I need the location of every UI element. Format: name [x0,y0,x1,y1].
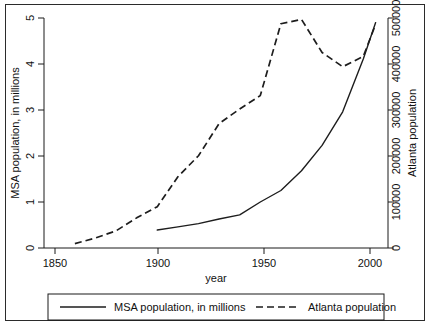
series-line-msa-population [157,23,375,230]
x-tick-label-2000: 2000 [358,257,382,269]
right-tick-label-0: 0 [390,245,402,251]
right-tick-label-2: 200000 [390,138,402,175]
chart-figure: 0 1 2 3 4 5 MSA population, in millions … [0,0,431,335]
chart-legend: MSA population, in millions Atlanta popu… [48,294,396,320]
left-tick-label-1: 1 [24,199,36,205]
x-axis-ticks [55,248,370,254]
left-tick-label-4: 4 [24,61,36,67]
legend-label-msa: MSA population, in millions [114,301,246,313]
left-tick-label-2: 2 [24,153,36,159]
x-tick-label-1950: 1950 [252,257,276,269]
right-axis-tick-labels: 0 100000 200000 300000 400000 500000 [390,0,402,251]
left-axis-tick-labels: 0 1 2 3 4 5 [24,15,36,251]
right-tick-label-4: 400000 [390,46,402,83]
legend-label-atlanta: Atlanta population [308,301,396,313]
left-tick-label-5: 5 [24,15,36,21]
left-axis-ticks [38,18,44,248]
left-tick-label-3: 3 [24,107,36,113]
x-axis-tick-labels: 1850 1900 1950 2000 [43,257,382,269]
left-tick-label-0: 0 [24,245,36,251]
left-axis-title: MSA population, in millions [9,67,21,199]
x-tick-label-1900: 1900 [146,257,170,269]
x-axis-title: year [205,272,227,284]
right-tick-label-3: 300000 [390,92,402,129]
right-axis-title: Atlanta population [406,89,418,177]
right-tick-label-1: 100000 [390,184,402,221]
right-tick-label-5: 500000 [390,0,402,36]
x-tick-label-1850: 1850 [43,257,67,269]
dual-axis-line-chart: 0 1 2 3 4 5 MSA population, in millions … [0,0,431,335]
